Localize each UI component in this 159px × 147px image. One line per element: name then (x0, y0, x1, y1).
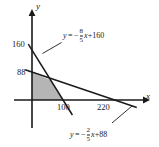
equation-1-intercept: 160 (92, 31, 104, 40)
y-axis-arrowhead (29, 9, 36, 16)
equation-2-numerator: 2 (87, 127, 91, 135)
equation-1-denominator: 5 (80, 35, 84, 44)
equation-2-intercept: 88 (99, 130, 107, 139)
x-axis-label: x (146, 92, 150, 101)
equation-2-lhs: y (70, 130, 74, 139)
equation-1-numerator: 8 (80, 28, 84, 36)
graph-figure: y x 160 88 100 220 y = − 8 5 x + 160 y =… (0, 0, 159, 147)
equation-2-denominator: 5 (87, 134, 91, 143)
equation-1-sign: − (74, 31, 79, 40)
equation-1-equals: = (68, 31, 73, 40)
equation-2-equals: = (75, 130, 80, 139)
equation-1-fraction: 8 5 (80, 28, 84, 44)
equation-2-fraction: 2 5 (87, 127, 91, 143)
leader-line-equation-1 (43, 43, 62, 54)
equation-2-sign: − (81, 130, 86, 139)
x-tick-label-100: 100 (57, 103, 70, 112)
leader-line-equation-2 (112, 106, 132, 123)
equation-label-line-1: y = − 8 5 x + 160 (63, 27, 104, 43)
equation-label-line-2: y = − 2 5 x + 88 (70, 126, 107, 142)
y-tick-label-160: 160 (12, 40, 25, 49)
y-axis-label: y (36, 2, 40, 11)
x-tick-label-220: 220 (97, 103, 110, 112)
y-tick-label-88: 88 (17, 68, 26, 77)
equation-1-lhs: y (63, 31, 67, 40)
